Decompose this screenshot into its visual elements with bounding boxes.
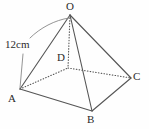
vertex-label-A: A bbox=[8, 93, 16, 104]
measurement-arc-leader bbox=[30, 18, 69, 38]
vertex-label-D: D bbox=[57, 52, 65, 63]
measurement-pointer-leader bbox=[20, 54, 23, 88]
vertex-label-O: O bbox=[66, 1, 74, 12]
edge-length-label-12cm: 12cm bbox=[5, 39, 29, 50]
pyramid-figure: O D A B C 12cm bbox=[0, 0, 149, 129]
edge-BC-line bbox=[92, 78, 131, 111]
solid-edges bbox=[20, 15, 131, 111]
hidden-edges bbox=[20, 15, 131, 89]
vertex-label-C: C bbox=[133, 71, 140, 82]
edge-OC-line bbox=[70, 15, 131, 78]
edge-AB-line bbox=[20, 89, 92, 111]
vertex-label-B: B bbox=[87, 114, 94, 125]
edge-OD-height-line bbox=[68, 15, 70, 68]
edge-DC-line bbox=[68, 68, 131, 78]
edge-OB-line bbox=[70, 15, 92, 111]
pyramid-drawing bbox=[0, 0, 149, 129]
